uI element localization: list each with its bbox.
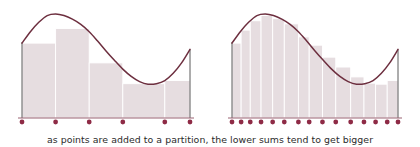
lower-sum-bar xyxy=(165,81,190,118)
partition-point-dot xyxy=(373,120,378,125)
lower-sum-bar xyxy=(22,43,56,118)
lower-sum-bar xyxy=(387,81,398,118)
partition-point-dot xyxy=(307,120,312,125)
partition-dots-group xyxy=(230,120,401,125)
panel-fine-partition xyxy=(228,14,402,124)
lower-sum-bar xyxy=(89,63,123,118)
partition-point-dot xyxy=(120,120,125,125)
partition-point-dot xyxy=(239,120,244,125)
partition-point-dot xyxy=(333,120,338,125)
lower-sum-bar xyxy=(261,16,273,118)
partition-point-dot xyxy=(230,120,235,125)
partition-point-dot xyxy=(248,120,253,125)
figure-caption: as points are added to a partition, the … xyxy=(0,134,420,146)
lower-sums-figure xyxy=(0,0,420,147)
partition-point-dot xyxy=(20,120,25,125)
lower-sum-bar xyxy=(298,37,309,118)
partition-point-dot xyxy=(87,120,92,125)
bars-group xyxy=(232,16,398,118)
partition-point-dot xyxy=(348,120,353,125)
partition-point-dot xyxy=(270,120,275,125)
partition-point-dot xyxy=(282,120,287,125)
partition-point-dot xyxy=(188,120,193,125)
partition-point-dot xyxy=(396,120,401,125)
lower-sum-bar xyxy=(250,21,261,118)
lower-sum-bar xyxy=(376,84,388,118)
lower-sum-bar xyxy=(241,30,250,118)
partition-dots-group xyxy=(20,120,193,125)
lower-sum-bar xyxy=(56,29,90,118)
lower-sum-bar xyxy=(123,84,165,118)
partition-point-dot xyxy=(296,120,301,125)
lower-sum-bar xyxy=(364,83,376,118)
partition-point-dot xyxy=(362,120,367,125)
partition-point-dot xyxy=(53,120,58,125)
panel-coarse-partition xyxy=(18,14,194,124)
partition-point-dot xyxy=(320,120,325,125)
partition-point-dot xyxy=(162,120,167,125)
lower-sum-bar xyxy=(284,24,298,118)
partition-point-dot xyxy=(385,120,390,125)
lower-sum-bar xyxy=(232,43,241,118)
partition-point-dot xyxy=(259,120,264,125)
lower-sum-bar xyxy=(273,19,285,118)
figure-canvas xyxy=(0,0,420,147)
bars-group xyxy=(22,29,190,118)
